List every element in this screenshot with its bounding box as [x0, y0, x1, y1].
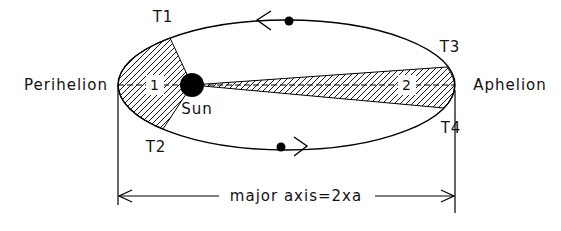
perihelion-label: Perihelion — [24, 76, 108, 94]
major-axis-label: major axis=2xa — [230, 187, 362, 205]
planet-marker-top — [285, 17, 294, 26]
sun-label: Sun — [181, 100, 213, 118]
t1-label: T1 — [152, 8, 174, 26]
area1-label: 1 — [150, 77, 160, 93]
sun-marker — [180, 73, 204, 97]
orbit-diagram-canvas: Perihelion Aphelion Sun T1 T2 T3 T4 1 2 … — [0, 0, 561, 231]
planet-marker-bottom — [277, 143, 286, 152]
t4-label: T4 — [440, 119, 462, 137]
t3-label: T3 — [439, 38, 461, 56]
kepler-orbit-diagram: Perihelion Aphelion Sun T1 T2 T3 T4 1 2 … — [0, 0, 561, 231]
area2-label: 2 — [402, 77, 412, 93]
t2-label: T2 — [145, 138, 167, 156]
aphelion-label: Aphelion — [473, 76, 547, 94]
direction-arrow-bottom — [294, 137, 307, 156]
